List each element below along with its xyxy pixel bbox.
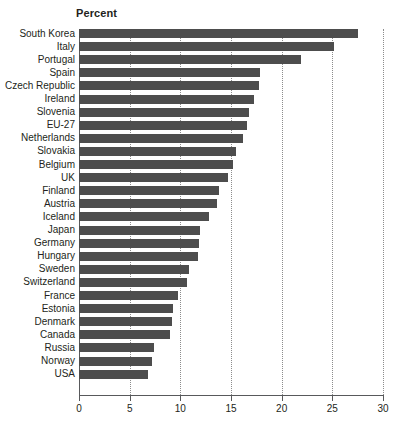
category-label: Slovakia xyxy=(1,146,75,156)
bar-row[interactable] xyxy=(79,304,383,313)
category-label: Spain xyxy=(1,68,75,78)
x-tick-label: 0 xyxy=(76,403,82,414)
category-label: Ireland xyxy=(1,94,75,104)
bar[interactable] xyxy=(79,95,254,104)
bar[interactable] xyxy=(79,29,358,38)
x-tick-mark-15 xyxy=(231,396,232,401)
bar[interactable] xyxy=(79,173,228,182)
category-label: Finland xyxy=(1,186,75,196)
bar-row[interactable] xyxy=(79,95,383,104)
bar-row[interactable] xyxy=(79,239,383,248)
plot-area xyxy=(79,29,383,395)
bar[interactable] xyxy=(79,357,152,366)
bar-row[interactable] xyxy=(79,29,383,38)
x-tick-mark-25 xyxy=(332,396,333,401)
bar-row[interactable] xyxy=(79,226,383,235)
category-label: Iceland xyxy=(1,212,75,222)
bar-row[interactable] xyxy=(79,278,383,287)
bar-row[interactable] xyxy=(79,186,383,195)
x-tick-mark-20 xyxy=(282,396,283,401)
bar-row[interactable] xyxy=(79,173,383,182)
bar[interactable] xyxy=(79,291,178,300)
bar-row[interactable] xyxy=(79,343,383,352)
bar[interactable] xyxy=(79,121,247,130)
bar-row[interactable] xyxy=(79,134,383,143)
category-label: Czech Republic xyxy=(1,81,75,91)
category-label: France xyxy=(1,291,75,301)
category-label: Japan xyxy=(1,225,75,235)
x-tick-mark-10 xyxy=(180,396,181,401)
bar-row[interactable] xyxy=(79,330,383,339)
bar[interactable] xyxy=(79,252,198,261)
bar-row[interactable] xyxy=(79,121,383,130)
category-label: Netherlands xyxy=(1,133,75,143)
category-label: Canada xyxy=(1,330,75,340)
bar[interactable] xyxy=(79,304,173,313)
bar[interactable] xyxy=(79,317,172,326)
x-tick-label: 20 xyxy=(276,403,287,414)
category-label: Norway xyxy=(1,356,75,366)
bar-row[interactable] xyxy=(79,81,383,90)
bar-row[interactable] xyxy=(79,291,383,300)
bar[interactable] xyxy=(79,265,189,274)
category-label: South Korea xyxy=(1,29,75,39)
bar[interactable] xyxy=(79,212,209,221)
bar-row[interactable] xyxy=(79,147,383,156)
bar[interactable] xyxy=(79,42,334,51)
bar[interactable] xyxy=(79,330,170,339)
bar[interactable] xyxy=(79,226,200,235)
category-label: Switzerland xyxy=(1,277,75,287)
bar[interactable] xyxy=(79,199,217,208)
category-label: Germany xyxy=(1,238,75,248)
bar-row[interactable] xyxy=(79,265,383,274)
bar[interactable] xyxy=(79,370,148,379)
x-tick-mark-30 xyxy=(383,396,384,401)
x-tick-label: 10 xyxy=(175,403,186,414)
bar-row[interactable] xyxy=(79,68,383,77)
category-label: Slovenia xyxy=(1,107,75,117)
bar[interactable] xyxy=(79,160,233,169)
category-label: Sweden xyxy=(1,264,75,274)
x-tick-mark-5 xyxy=(130,396,131,401)
bar-row[interactable] xyxy=(79,252,383,261)
bar[interactable] xyxy=(79,343,154,352)
bar-row[interactable] xyxy=(79,42,383,51)
category-axis-labels: South KoreaItalyPortugalSpainCzech Repub… xyxy=(0,29,75,395)
category-label: Austria xyxy=(1,199,75,209)
bar-row[interactable] xyxy=(79,55,383,64)
category-label: Denmark xyxy=(1,317,75,327)
category-label: Italy xyxy=(1,42,75,52)
bar-row[interactable] xyxy=(79,357,383,366)
category-label: Estonia xyxy=(1,304,75,314)
bar[interactable] xyxy=(79,278,187,287)
bar[interactable] xyxy=(79,108,249,117)
bar-row[interactable] xyxy=(79,317,383,326)
bar-row[interactable] xyxy=(79,108,383,117)
x-tick-mark-0 xyxy=(79,396,80,401)
category-label: USA xyxy=(1,369,75,379)
bar-chart: Percent South KoreaItalyPortugalSpainCze… xyxy=(0,0,406,428)
bar[interactable] xyxy=(79,55,301,64)
chart-title: Percent xyxy=(76,7,117,19)
bar-row[interactable] xyxy=(79,212,383,221)
bar[interactable] xyxy=(79,81,259,90)
x-tick-label: 5 xyxy=(127,403,133,414)
gridline-30 xyxy=(383,29,384,395)
x-tick-label: 25 xyxy=(327,403,338,414)
category-label: Portugal xyxy=(1,55,75,65)
bar[interactable] xyxy=(79,68,260,77)
category-label: Hungary xyxy=(1,251,75,261)
bar[interactable] xyxy=(79,239,199,248)
category-label: UK xyxy=(1,173,75,183)
bar-row[interactable] xyxy=(79,160,383,169)
bar[interactable] xyxy=(79,186,219,195)
x-tick-label: 30 xyxy=(377,403,388,414)
category-label: Belgium xyxy=(1,160,75,170)
bar[interactable] xyxy=(79,147,236,156)
bar-row[interactable] xyxy=(79,370,383,379)
category-label: EU-27 xyxy=(1,120,75,130)
category-label: Russia xyxy=(1,343,75,353)
bar[interactable] xyxy=(79,134,243,143)
x-tick-label: 15 xyxy=(225,403,236,414)
bar-row[interactable] xyxy=(79,199,383,208)
